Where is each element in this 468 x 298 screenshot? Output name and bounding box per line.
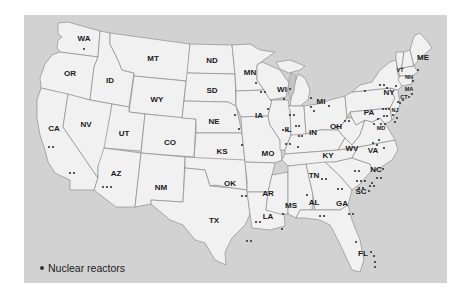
label-NE: NE xyxy=(208,117,220,126)
state-FL xyxy=(296,205,364,272)
label-IN: IN xyxy=(309,128,317,137)
label-CA: CA xyxy=(48,124,60,133)
label-MT: MT xyxy=(147,54,159,63)
label-WI: WI xyxy=(277,85,287,94)
legend-label: Nuclear reactors xyxy=(48,262,125,274)
label-MN: MN xyxy=(244,68,257,77)
label-VA: VA xyxy=(368,146,379,155)
label-LA: LA xyxy=(263,212,274,221)
label-NY: NY xyxy=(383,88,395,97)
label-UT: UT xyxy=(119,129,130,138)
label-ND: ND xyxy=(206,56,218,65)
label-SD: SD xyxy=(206,86,217,95)
label-WV: WV xyxy=(346,144,360,153)
label-KS: KS xyxy=(216,147,228,156)
label-TX: TX xyxy=(209,216,220,225)
label-CT: CT xyxy=(400,94,408,100)
label-CO: CO xyxy=(164,138,176,147)
label-NV: NV xyxy=(80,120,92,129)
label-MA: MA xyxy=(405,86,414,92)
state-CO xyxy=(141,114,196,157)
label-MI: MI xyxy=(317,97,326,106)
label-ID: ID xyxy=(106,76,114,85)
label-IA: IA xyxy=(255,111,263,120)
us-map-svg: WA OR CA ID NV MT WY UT CO AZ NM ND SD N… xyxy=(24,15,447,283)
label-NJ: NJ xyxy=(391,107,398,113)
label-NM: NM xyxy=(155,183,168,192)
label-WY: WY xyxy=(151,95,165,104)
legend: Nuclear reactors xyxy=(40,262,125,274)
label-ME: ME xyxy=(417,53,430,62)
label-KY: KY xyxy=(322,151,334,160)
label-AL: AL xyxy=(309,198,320,207)
label-FL: FL xyxy=(358,249,368,258)
label-SC: SC xyxy=(355,187,366,196)
label-WA: WA xyxy=(78,34,91,43)
label-MS: MS xyxy=(285,201,298,210)
label-IL: IL xyxy=(284,125,291,134)
label-TN: TN xyxy=(309,171,320,180)
label-OK: OK xyxy=(224,179,236,188)
label-AZ: AZ xyxy=(111,169,122,178)
state-NM xyxy=(135,153,185,207)
label-PA: PA xyxy=(364,108,375,117)
label-AR: AR xyxy=(262,189,274,198)
label-GA: GA xyxy=(336,199,348,208)
label-MO: MO xyxy=(262,149,275,158)
label-OR: OR xyxy=(64,69,76,78)
us-map: WA OR CA ID NV MT WY UT CO AZ NM ND SD N… xyxy=(24,15,447,283)
label-NH: NH xyxy=(405,74,413,80)
label-NC: NC xyxy=(370,165,382,174)
label-VT: VT xyxy=(396,67,404,73)
dot-marker-icon xyxy=(40,266,44,270)
label-MD: MD xyxy=(377,125,386,131)
